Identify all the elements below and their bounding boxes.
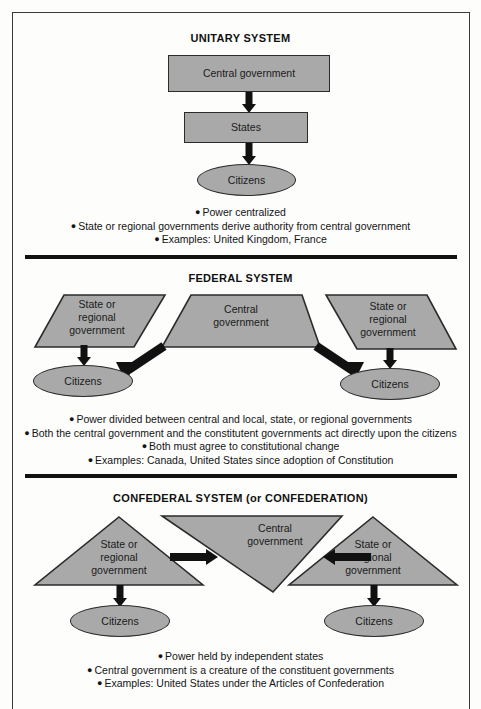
unitary-central-government-label: Central government	[169, 67, 329, 80]
federal-state-right-label-line3: government	[333, 326, 443, 339]
federal-bullet-item: ●Both must agree to constitutional chang…	[0, 440, 481, 454]
bullet-dot-icon: ●	[87, 665, 94, 675]
unitary-states-node: States	[184, 112, 308, 143]
unitary-system-title: UNITARY SYSTEM	[0, 32, 481, 44]
unitary-bullet-item: ●State or regional governments derive au…	[0, 220, 481, 234]
confederal-citizens-right-node: Citizens	[324, 605, 424, 637]
unitary-bullet-text: Power centralized	[202, 206, 285, 218]
arrow-unitary-central-to-states	[241, 92, 257, 113]
federal-citizens-right-node: Citizens	[340, 368, 440, 400]
unitary-bullet-item: ●Examples: United Kingdom, France	[0, 233, 481, 247]
bullet-dot-icon: ●	[88, 455, 95, 465]
arrow-unitary-states-to-citizens	[241, 143, 257, 165]
unitary-bullet-text: State or regional governments derive aut…	[78, 220, 410, 232]
bullet-dot-icon: ●	[154, 234, 161, 244]
federal-bullet-text: Power divided between central and local,…	[76, 413, 412, 425]
federal-state-left-label-line3: government	[42, 324, 152, 337]
unitary-citizens-node: Citizens	[197, 164, 296, 196]
federal-bullet-item: ●Both the central government and the con…	[0, 427, 481, 441]
federal-bullet-text: Examples: Canada, United States since ad…	[95, 454, 393, 466]
arrow-federal-state-right-to-citizens	[382, 348, 398, 369]
federal-bullet-item: ●Power divided between central and local…	[0, 413, 481, 427]
confederal-bullet-item: ●Central government is a creature of the…	[0, 664, 481, 678]
confederal-state-left-label-line2: regional	[64, 551, 174, 564]
diagram-page: UNITARY SYSTEM Central government States…	[0, 0, 481, 709]
confederal-system-title: CONFEDERAL SYSTEM (or CONFEDERATION)	[0, 492, 481, 504]
bullet-dot-icon: ●	[142, 441, 149, 451]
federal-central-label-line2: government	[181, 316, 301, 329]
confederal-bullet-list: ●Power held by independent states ●Centr…	[0, 650, 481, 691]
federal-bullet-text: Both must agree to constitutional change	[149, 440, 339, 452]
unitary-central-government-node: Central government	[168, 55, 330, 92]
federal-state-right-label-line2: regional	[333, 313, 443, 326]
arrow-confederal-state-left-to-central	[170, 549, 218, 565]
federal-citizens-left-node: Citizens	[33, 365, 133, 397]
confederal-citizens-left-label: Citizens	[71, 615, 169, 628]
arrow-confederal-state-left-to-citizens	[112, 585, 128, 607]
confederal-bullet-item: ●Power held by independent states	[0, 650, 481, 664]
confederal-bullet-text: Central government is a creature of the …	[95, 664, 394, 676]
federal-citizens-left-label: Citizens	[34, 375, 132, 388]
confederal-state-left-label-group: State or regional government	[64, 538, 174, 586]
arrow-confederal-state-right-to-citizens	[366, 585, 382, 607]
federal-state-right-label-group: State or regional government	[333, 300, 443, 348]
unitary-bullet-text: Examples: United Kingdom, France	[162, 233, 327, 245]
divider-after-federal	[25, 474, 457, 478]
unitary-bullet-item: ●Power centralized	[0, 206, 481, 220]
federal-citizens-right-label: Citizens	[341, 378, 439, 391]
bullet-dot-icon: ●	[24, 428, 31, 438]
federal-bullet-text: Both the central government and the cons…	[32, 427, 457, 439]
divider-after-unitary	[25, 255, 457, 259]
confederal-state-right-label-line3: government	[318, 564, 428, 577]
arrow-confederal-state-right-to-central	[323, 549, 371, 565]
confederal-state-left-label-line3: government	[64, 564, 174, 577]
arrow-federal-state-left-to-citizens	[76, 345, 92, 366]
confederal-citizens-right-label: Citizens	[325, 615, 423, 628]
federal-central-label-group: Central government	[181, 303, 301, 335]
federal-bullet-list: ●Power divided between central and local…	[0, 413, 481, 467]
federal-state-left-label-group: State or regional government	[42, 298, 152, 346]
federal-bullet-item: ●Examples: Canada, United States since a…	[0, 454, 481, 468]
federal-central-label-line1: Central	[181, 303, 301, 316]
federal-system-title: FEDERAL SYSTEM	[0, 272, 481, 284]
bullet-dot-icon: ●	[158, 651, 165, 661]
confederal-bullet-item: ●Examples: United States under the Artic…	[0, 677, 481, 691]
federal-state-left-label-line2: regional	[42, 311, 152, 324]
confederal-bullet-text: Examples: United States under the Articl…	[104, 677, 384, 689]
unitary-citizens-label: Citizens	[198, 174, 295, 187]
confederal-citizens-left-node: Citizens	[70, 605, 170, 637]
confederal-state-left-label-line1: State or	[64, 538, 174, 551]
unitary-states-label: States	[185, 121, 307, 134]
federal-state-right-label-line1: State or	[333, 300, 443, 313]
confederal-bullet-text: Power held by independent states	[165, 650, 323, 662]
federal-state-left-label-line1: State or	[42, 298, 152, 311]
unitary-bullet-list: ●Power centralized ●State or regional go…	[0, 206, 481, 247]
